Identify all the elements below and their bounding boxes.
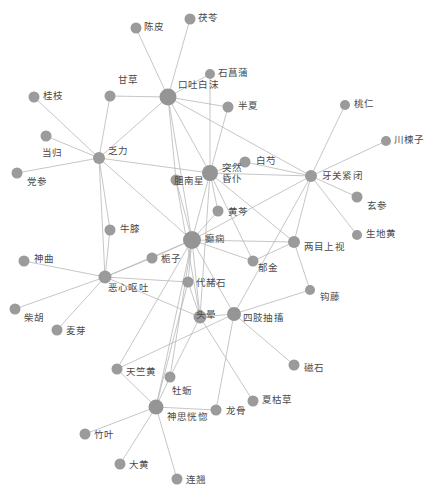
graph-node[interactable] — [381, 136, 391, 146]
graph-node[interactable] — [105, 225, 116, 236]
graph-node[interactable] — [240, 157, 251, 168]
graph-edge — [105, 230, 110, 277]
graph-edge — [120, 407, 156, 464]
graph-node[interactable] — [205, 69, 215, 79]
graph-edge — [156, 240, 192, 407]
graph-edge — [34, 97, 99, 158]
graph-node[interactable] — [185, 14, 196, 25]
graph-node[interactable] — [248, 256, 259, 267]
graph-node[interactable] — [52, 325, 63, 336]
graph-node[interactable] — [112, 364, 123, 375]
graph-node[interactable] — [41, 131, 52, 142]
graph-node[interactable] — [194, 311, 207, 324]
graph-edge — [24, 261, 105, 277]
graph-node[interactable] — [99, 271, 112, 284]
graph-node[interactable] — [160, 89, 177, 106]
graph-edge — [245, 162, 311, 176]
graph-edge — [168, 19, 190, 97]
graph-edge — [99, 97, 168, 158]
graph-node[interactable] — [29, 92, 40, 103]
graph-node[interactable] — [147, 253, 158, 264]
graph-node[interactable] — [352, 230, 362, 240]
graph-node[interactable] — [80, 429, 91, 440]
graph-node[interactable] — [305, 285, 315, 295]
nodes-group — [10, 14, 392, 485]
graph-node[interactable] — [105, 91, 116, 102]
graph-edge — [216, 314, 234, 410]
graph-node[interactable] — [19, 256, 30, 267]
graph-edge — [46, 136, 99, 158]
graph-edge — [176, 180, 192, 240]
graph-node[interactable] — [352, 192, 363, 203]
graph-edge — [15, 277, 105, 309]
graph-edge — [311, 105, 345, 176]
graph-edge — [200, 317, 253, 401]
network-graph-figure: 陈皮茯苓石菖蒲甘草口吐白沫半夏桂枝桃仁当归乏力川楝子白芍党参牙关紧闭胆南星突然昏… — [0, 0, 434, 499]
graph-edge — [294, 242, 310, 290]
graph-node[interactable] — [172, 474, 183, 485]
graph-node[interactable] — [10, 304, 21, 315]
graph-node[interactable] — [115, 459, 126, 470]
graph-edge — [57, 277, 105, 330]
graph-edge — [311, 176, 357, 235]
graph-node[interactable] — [211, 405, 222, 416]
graph-edge — [210, 173, 294, 242]
graph-node[interactable] — [340, 100, 350, 110]
graph-edge — [117, 369, 156, 407]
graph-node[interactable] — [202, 165, 218, 181]
graph-node[interactable] — [93, 152, 105, 164]
graph-edge — [311, 141, 386, 176]
graph-edge — [210, 107, 228, 173]
graph-edge — [156, 407, 177, 479]
graph-edge — [234, 314, 294, 365]
graph-canvas — [0, 0, 434, 499]
graph-edge — [210, 173, 311, 176]
graph-node[interactable] — [288, 236, 300, 248]
graph-edge — [136, 28, 168, 97]
graph-node[interactable] — [183, 277, 194, 288]
graph-edge — [210, 173, 253, 261]
edges-group — [15, 19, 386, 479]
graph-edge — [294, 176, 311, 242]
graph-node[interactable] — [165, 372, 176, 383]
graph-node[interactable] — [213, 206, 224, 217]
graph-edge — [85, 407, 156, 434]
graph-edge — [99, 158, 210, 173]
graph-edge — [156, 407, 216, 410]
graph-node[interactable] — [227, 307, 241, 321]
graph-node[interactable] — [183, 231, 201, 249]
graph-edge — [105, 277, 188, 282]
graph-node[interactable] — [305, 170, 317, 182]
graph-edge — [253, 242, 294, 261]
graph-node[interactable] — [248, 396, 259, 407]
graph-node[interactable] — [223, 102, 234, 113]
graph-edge — [110, 96, 168, 97]
graph-edge — [200, 173, 210, 317]
graph-node[interactable] — [131, 23, 142, 34]
graph-node[interactable] — [171, 175, 182, 186]
graph-edge — [17, 158, 99, 173]
graph-node[interactable] — [289, 360, 300, 371]
graph-node[interactable] — [12, 168, 23, 179]
graph-node[interactable] — [149, 400, 164, 415]
graph-edge — [117, 314, 234, 369]
graph-edge — [311, 176, 357, 197]
graph-edge — [99, 96, 110, 158]
